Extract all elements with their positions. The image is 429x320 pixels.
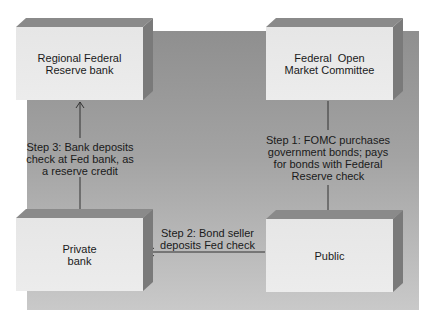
node-fomc: Federal Open Market Committee	[266, 18, 393, 91]
node-label: Private	[62, 243, 96, 255]
node-private-bank: Private bank	[16, 209, 143, 282]
step-text-line: Reserve check	[262, 170, 394, 182]
node-label: Federal Open	[285, 52, 375, 64]
box-front-face: Private bank	[16, 218, 143, 291]
box-top-face	[16, 209, 153, 218]
step-text-line: Step 3: Bank deposits	[20, 141, 140, 153]
box-top-face	[16, 18, 153, 27]
step1-label: Step 1: FOMC purchases government bonds;…	[262, 134, 394, 182]
step-text-line: Step 2: Bond seller	[150, 227, 265, 239]
node-label: bank	[62, 255, 96, 267]
step-text-line: Step 1: FOMC purchases	[262, 134, 394, 146]
box-side-face	[393, 18, 403, 100]
step-text-line: for bonds with Federal	[262, 158, 394, 170]
step-text-line: a reserve credit	[20, 165, 140, 177]
box-front-face: Public	[266, 219, 393, 292]
step-text-line: government bonds; pays	[262, 146, 394, 158]
box-side-face	[143, 18, 153, 100]
step-text-line: deposits Fed check	[150, 239, 265, 251]
step3-label: Step 3: Bank deposits check at Fed bank,…	[20, 141, 140, 177]
node-label: Reserve bank	[38, 64, 122, 76]
box-top-face	[266, 18, 403, 27]
node-label: Public	[315, 250, 345, 262]
node-regional-fed: Regional Federal Reserve bank	[16, 18, 143, 91]
step2-label: Step 2: Bond seller deposits Fed check	[150, 227, 265, 251]
box-front-face: Federal Open Market Committee	[266, 27, 393, 100]
box-top-face	[266, 210, 403, 219]
node-public: Public	[266, 210, 393, 283]
box-side-face	[393, 210, 403, 292]
node-label: Market Committee	[285, 64, 375, 76]
node-label: Regional Federal	[38, 52, 122, 64]
step-text-line: check at Fed bank, as	[20, 153, 140, 165]
box-front-face: Regional Federal Reserve bank	[16, 27, 143, 100]
